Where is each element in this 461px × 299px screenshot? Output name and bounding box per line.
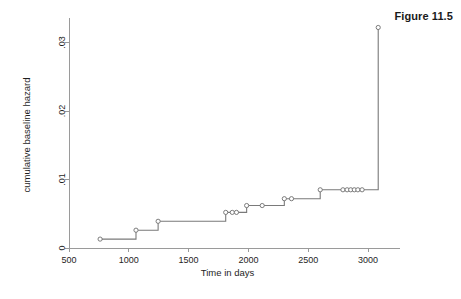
data-point-marker — [282, 197, 286, 201]
data-point-marker — [289, 197, 293, 201]
cumulative-baseline-hazard-chart: 0.01.02.0350010001500200025003000Time in… — [0, 0, 461, 299]
y-tick-label: .02 — [57, 105, 67, 118]
data-point-marker — [230, 210, 234, 214]
y-tick-label: .01 — [57, 173, 67, 186]
y-axis-title: cumulative baseline hazard — [21, 77, 32, 192]
data-point-marker — [360, 188, 364, 192]
data-point-marker — [156, 219, 160, 223]
data-point-marker — [234, 210, 238, 214]
x-tick-label: 1000 — [119, 255, 139, 265]
x-axis-title: Time in days — [201, 267, 255, 278]
data-point-marker — [98, 237, 102, 241]
data-point-marker — [376, 25, 380, 29]
data-point-marker — [245, 203, 249, 207]
x-tick-label: 2000 — [238, 255, 258, 265]
figure-container: Figure 11.5 0.01.02.03500100015002000250… — [0, 0, 461, 299]
y-tick-label: 0 — [57, 245, 67, 250]
x-tick-label: 3000 — [358, 255, 378, 265]
x-tick-label: 2500 — [298, 255, 318, 265]
x-tick-label: 500 — [61, 255, 76, 265]
data-point-marker — [356, 188, 360, 192]
hazard-step-line — [100, 27, 378, 239]
y-tick-label: .03 — [57, 36, 67, 49]
data-point-marker — [318, 188, 322, 192]
data-point-marker — [260, 203, 264, 207]
data-point-marker — [341, 188, 345, 192]
x-tick-label: 1500 — [179, 255, 199, 265]
data-point-marker — [134, 228, 138, 232]
data-point-marker — [224, 210, 228, 214]
